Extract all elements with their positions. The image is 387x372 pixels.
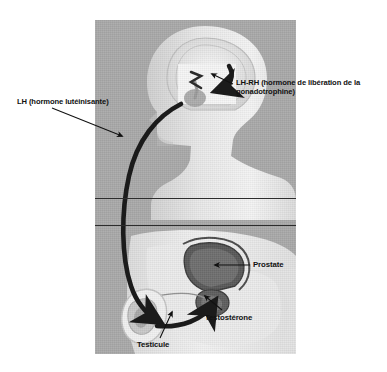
lhrh-leader-line [212, 74, 233, 84]
testicule-leader-line [160, 312, 172, 338]
label-lh: LH (hormone lutéinisante) [17, 97, 109, 106]
lh-leader-line [52, 108, 122, 136]
leader-line-layer [0, 0, 387, 372]
testosterone-leader-line [205, 296, 222, 310]
anatomical-diagram: LH-RH (hormone de libération de la gonad… [0, 0, 387, 372]
label-prostate: Prostate [253, 260, 283, 270]
label-testosterone: Testostérone [205, 313, 252, 323]
label-testicule: Testicule [137, 340, 169, 350]
label-lhrh: LH-RH (hormone de libération de la gonad… [236, 78, 386, 97]
